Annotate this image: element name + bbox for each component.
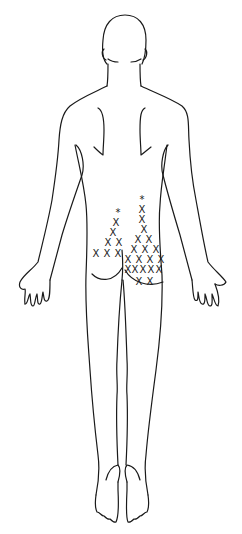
neck-left xyxy=(107,64,108,86)
x-marker: X xyxy=(156,264,163,275)
right-hand-fingers xyxy=(192,280,219,306)
pain-markers: *XXXXXXX*XXXXXXXXXXXXXXXXXXX xyxy=(93,194,165,287)
x-marker: X xyxy=(93,248,100,259)
right-jaw-line xyxy=(131,59,141,62)
x-marker: X xyxy=(105,237,112,248)
right-scapula xyxy=(140,108,151,155)
x-marker: X xyxy=(125,264,132,275)
body-diagram: *XXXXXXX*XXXXXXXXXXXXXXXXXXX xyxy=(0,0,242,534)
right-arm-inner xyxy=(162,145,192,280)
left-heel xyxy=(106,465,120,482)
body-outline xyxy=(19,15,226,522)
left-torso-side xyxy=(75,145,99,495)
left-ear xyxy=(102,49,106,60)
left-scapula xyxy=(94,108,104,155)
x-marker: X xyxy=(147,276,154,287)
neck-right xyxy=(140,64,141,86)
x-marker: X xyxy=(132,264,139,275)
left-jaw-line xyxy=(108,59,118,62)
right-leg-inner xyxy=(123,280,127,465)
left-arm-outer xyxy=(19,86,107,304)
gluteal-cleft xyxy=(122,250,123,280)
x-marker: X xyxy=(148,264,155,275)
left-leg-inner xyxy=(117,280,122,465)
right-torso-side xyxy=(145,145,167,495)
left-hand-fingers xyxy=(25,280,50,306)
left-buttock-curve xyxy=(92,268,122,279)
left-arm-inner xyxy=(50,145,83,280)
x-marker: X xyxy=(140,264,147,275)
x-marker: X xyxy=(104,248,111,259)
right-foot xyxy=(126,482,148,522)
x-marker: X xyxy=(115,248,122,259)
head-outline xyxy=(103,15,146,64)
right-arm-outer xyxy=(141,86,226,285)
x-marker: X xyxy=(136,276,143,287)
left-foot xyxy=(95,482,118,522)
x-marker: X xyxy=(116,237,123,248)
right-heel xyxy=(125,465,140,482)
